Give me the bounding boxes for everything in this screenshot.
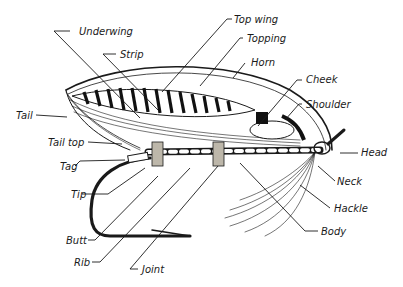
label-body: Body	[321, 226, 346, 238]
label-underwing: Underwing	[79, 26, 133, 38]
label-tail-top: Tail top	[48, 137, 84, 149]
label-head: Head	[361, 147, 387, 159]
label-hackle: Hackle	[334, 203, 368, 215]
label-strip: Strip	[120, 49, 144, 61]
label-topping: Topping	[247, 33, 286, 45]
label-butt: Butt	[66, 235, 87, 247]
fly-anatomy-diagram: Underwing Strip Top wing Topping Horn Ch…	[0, 0, 403, 287]
label-neck: Neck	[337, 176, 362, 188]
label-joint: Joint	[142, 264, 164, 276]
label-tag: Tag	[60, 161, 78, 173]
label-tail: Tail	[16, 110, 33, 122]
label-horn: Horn	[251, 57, 275, 69]
label-rib: Rib	[74, 257, 90, 269]
label-cheek: Cheek	[306, 74, 337, 86]
label-top-wing: Top wing	[234, 14, 278, 26]
label-tip: Tip	[71, 189, 86, 201]
label-shoulder: Shoulder	[306, 99, 351, 111]
